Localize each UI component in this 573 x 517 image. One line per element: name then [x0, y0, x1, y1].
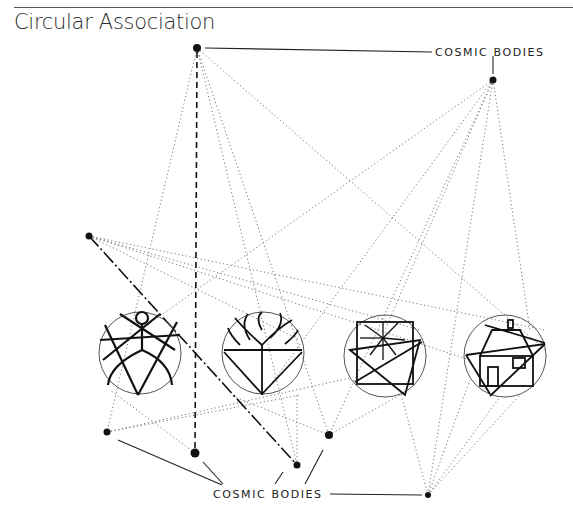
symbol-sun — [344, 315, 426, 397]
leader-lines — [118, 48, 493, 495]
cosmic-body-dot — [191, 449, 200, 458]
door-icon — [488, 367, 498, 386]
cosmic-body-dot — [325, 431, 333, 439]
cosmic-body-dot — [294, 462, 301, 469]
cosmic-body-dot — [490, 77, 497, 84]
symbol-house — [464, 315, 546, 397]
chimney-icon — [508, 320, 513, 328]
head-icon — [136, 312, 148, 324]
dashed-link — [195, 52, 197, 449]
cosmic-bodies — [86, 44, 497, 498]
symbol-tree — [222, 312, 304, 395]
window-icon — [513, 358, 525, 368]
circular-association-diagram: COSMIC BODIES COSMIC BODIES — [0, 0, 573, 517]
association-lines — [89, 48, 545, 495]
label-cosmic-bodies-bottom: COSMIC BODIES — [213, 488, 323, 501]
label-cosmic-bodies-top: COSMIC BODIES — [435, 46, 545, 59]
cosmic-body-dot — [425, 492, 431, 498]
cosmic-body-dot — [86, 233, 93, 240]
cosmic-body-dot — [104, 429, 111, 436]
cosmic-body-dot — [193, 44, 201, 52]
